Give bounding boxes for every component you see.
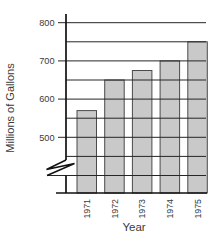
axis-break-zigzag bbox=[47, 160, 75, 176]
y-tick-label-700: 700 bbox=[39, 56, 54, 66]
y-axis-break bbox=[47, 160, 75, 176]
y-tick-label-600: 600 bbox=[39, 94, 54, 104]
x-tick-label-1975: 1975 bbox=[193, 199, 203, 219]
y-tick-label-800: 800 bbox=[39, 18, 54, 28]
x-tick-label-1974: 1974 bbox=[165, 199, 175, 219]
x-tick-label-1973: 1973 bbox=[137, 199, 147, 219]
bar-1971 bbox=[77, 111, 97, 193]
x-tick-labels-group: 19711972197319741975 bbox=[82, 199, 203, 219]
x-tick-label-1972: 1972 bbox=[110, 199, 120, 219]
gridlines-group bbox=[47, 23, 206, 176]
bar-chart: 500600700800 19711972197319741975 Millio… bbox=[0, 0, 210, 248]
chart-page: 500600700800 19711972197319741975 Millio… bbox=[0, 0, 210, 248]
bar-1973 bbox=[132, 71, 152, 194]
bars-group bbox=[77, 42, 207, 193]
y-tick-label-500: 500 bbox=[39, 133, 54, 143]
y-axis-title: Millions of Gallons bbox=[4, 63, 16, 153]
bar-1972 bbox=[105, 80, 125, 193]
y-tick-labels-group: 500600700800 bbox=[39, 18, 54, 143]
bar-1974 bbox=[160, 61, 180, 193]
bar-1975 bbox=[188, 42, 208, 193]
x-axis-title: Year bbox=[122, 221, 145, 233]
x-tick-label-1971: 1971 bbox=[82, 199, 92, 219]
